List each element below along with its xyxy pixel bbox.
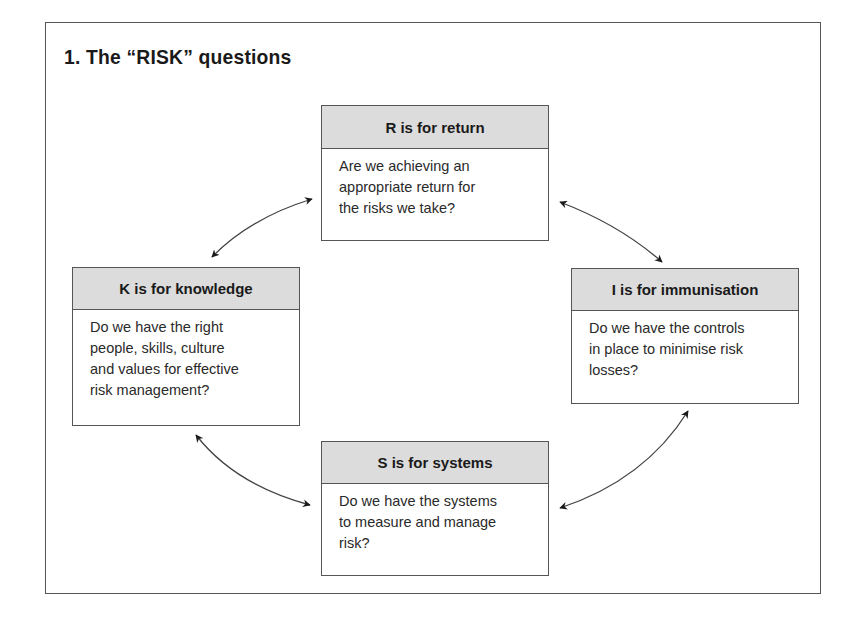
arrow-knowledge-systems: [196, 435, 310, 505]
connector-arrows: [0, 0, 854, 622]
arrow-return-immunisation: [560, 202, 662, 262]
arrow-knowledge-return: [212, 199, 312, 257]
arrow-systems-immunisation: [560, 411, 688, 508]
